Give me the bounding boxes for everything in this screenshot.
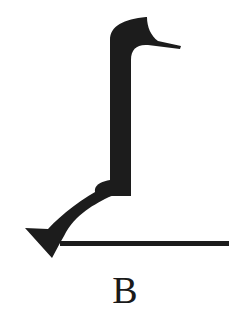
baseline bbox=[60, 241, 229, 246]
hooked-head-and-shaft bbox=[110, 17, 181, 196]
figure-label: B bbox=[0, 268, 250, 312]
diagram-figure bbox=[0, 0, 250, 312]
angled-segment-and-foot bbox=[25, 186, 111, 258]
